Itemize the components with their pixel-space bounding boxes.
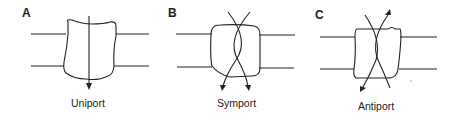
panel-antiport: C Antiport (300, 0, 459, 127)
caption-uniport: Uniport (71, 97, 105, 109)
panel-uniport: A Uniport (0, 0, 153, 127)
caption-symport: Symport (217, 97, 256, 109)
caption-antiport: Antiport (358, 100, 394, 112)
panel-symport: B Symport (150, 0, 305, 127)
